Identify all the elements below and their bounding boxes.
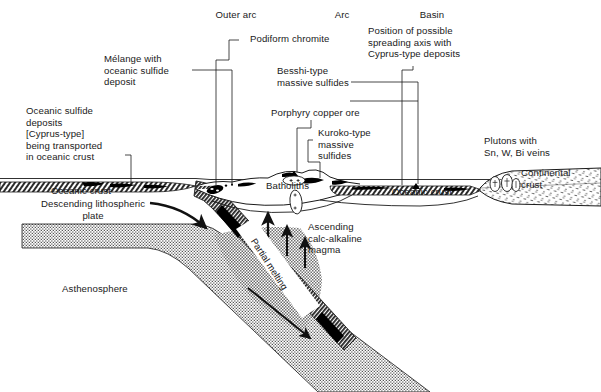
label-ocsulf-line5: in oceanic crust — [26, 151, 94, 162]
label-spreading-axis: Position of possiblespreading axis withC… — [368, 25, 460, 60]
label-plutons-line1: Plutons with — [484, 135, 537, 146]
label-oceanic-crust-left: Oceanic crust — [51, 185, 111, 197]
label-descending-line1: Descending lithospheric — [41, 198, 145, 209]
leader-spreading-axis — [402, 66, 413, 185]
leader-porphyry — [297, 120, 311, 172]
label-ocsulf-line1: Oceanic sulfide — [26, 105, 93, 116]
label-ascending-magma: Ascendingcalc-alkalinemagma — [308, 221, 362, 256]
label-melange-line1: Mélange with — [104, 53, 162, 64]
label-ocsulf-line2: deposits — [26, 117, 63, 128]
label-continental-line2: crust — [521, 179, 542, 190]
zone-heading-outer-arc: Outer arc — [205, 9, 267, 21]
label-oceanic-sulfide-deposits: Oceanic sulfidedeposits[Cyprus-type]bein… — [26, 105, 102, 163]
label-descending-plate: Descending lithosphericplate — [41, 198, 145, 221]
label-continental-line1: Continental — [521, 167, 571, 178]
label-besshi: Besshi-typemassive sulfides — [277, 65, 349, 88]
label-kuroko-line3: sulfides — [318, 150, 351, 161]
label-besshi-line1: Besshi-type — [277, 65, 328, 76]
figure-canvas: Outer arc Arc Basin Podiform chromite Mé… — [0, 0, 601, 392]
label-batholiths: Batholiths — [266, 180, 309, 192]
label-ascending-line3: magma — [308, 244, 340, 255]
label-melange-line3: deposit — [104, 76, 136, 87]
label-ascending-line1: Ascending — [308, 221, 354, 232]
leader-oceanic-sulfide — [125, 155, 131, 184]
label-plutons-line2: Sn, W, Bi veins — [484, 147, 550, 158]
label-kuroko-line2: massive — [318, 139, 354, 150]
label-ocsulf-line4: being transported — [26, 140, 102, 151]
label-podiform-chromite: Podiform chromite — [250, 33, 329, 45]
label-oceanic-crust-basin: Oceanic crust — [392, 186, 452, 198]
label-porphyry-copper: Porphyry copper ore — [271, 107, 360, 119]
leader-melange — [192, 70, 232, 186]
label-plutons: Plutons withSn, W, Bi veins — [484, 135, 550, 158]
label-spreading-axis-line2: spreading axis with — [368, 37, 451, 48]
leader-podiform — [216, 40, 239, 186]
label-ocsulf-line3: [Cyprus-type] — [26, 128, 84, 139]
zone-heading-basin: Basin — [411, 9, 453, 21]
label-continental-crust: Continentalcrust — [521, 167, 571, 190]
label-asthenosphere: Asthenosphere — [62, 283, 128, 295]
label-spreading-axis-line3: Cyprus-type deposits — [368, 48, 460, 59]
label-melange: Mélange withoceanic sulfidedeposit — [104, 53, 169, 88]
label-kuroko: Kuroko-typemassivesulfides — [318, 127, 371, 162]
label-ascending-line2: calc-alkaline — [308, 233, 362, 244]
zone-heading-arc: Arc — [325, 9, 359, 21]
label-melange-line2: oceanic sulfide — [104, 65, 169, 76]
label-descending-line2: plate — [41, 210, 145, 222]
label-kuroko-line1: Kuroko-type — [318, 127, 371, 138]
label-besshi-line2: massive sulfides — [277, 77, 349, 88]
label-spreading-axis-line1: Position of possible — [368, 25, 453, 36]
